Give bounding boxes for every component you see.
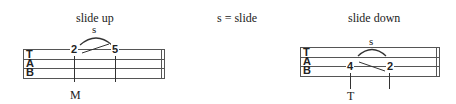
fret-number-to: 5 [111, 43, 119, 55]
legend-text: s = slide [217, 11, 257, 26]
fret-number-from: 4 [346, 60, 354, 72]
tab-clef-b: B [26, 68, 34, 77]
slide-up-technique: s [92, 23, 96, 35]
tab-clef: T A B [303, 48, 311, 75]
fret-number-to: 2 [386, 60, 394, 72]
tab-clef-b: B [303, 66, 311, 75]
slide-down-title: slide down [348, 11, 400, 26]
finger-label: T [347, 89, 354, 104]
slide-down-technique: s [369, 35, 373, 47]
tab-clef: T A B [26, 50, 34, 77]
fret-number-from: 2 [70, 43, 78, 55]
staff-slide-up [23, 38, 165, 82]
staff-slide-down [300, 47, 440, 89]
finger-label: M [70, 88, 81, 103]
